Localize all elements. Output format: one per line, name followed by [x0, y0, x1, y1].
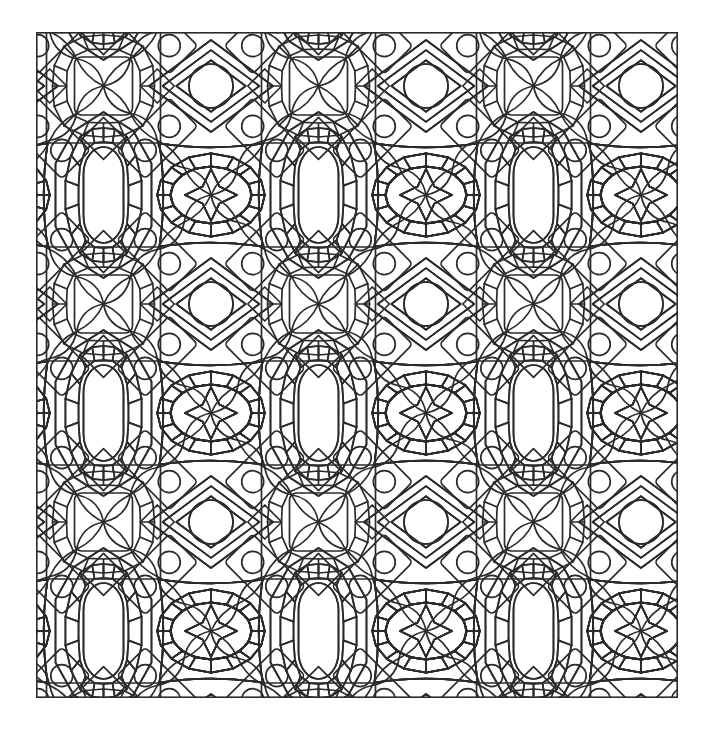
tessellation-artwork	[36, 32, 678, 698]
page-root	[0, 0, 713, 732]
pattern-artboard	[36, 32, 678, 698]
